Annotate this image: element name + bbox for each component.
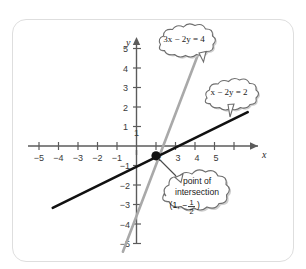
x-tick-label-3: 3 [175,153,180,163]
y-axis-arrow-icon [133,37,140,45]
x-axis-ticks-negative: −5 −4 −3 −2 −1 [34,142,122,163]
y-tick-label--2: −2 [120,181,130,191]
x-tick-label--2: −2 [92,153,102,163]
figure-root: x y −5 −4 −3 −2 −1 1 2 3 4 5 [0,0,306,269]
y-tick-label-4: 4 [123,64,128,74]
callout-2-text: x − 2y = 2 [210,87,247,97]
x-tick-label-1: 1 [134,128,139,138]
callout-1-text: 3x − 2y = 4 [163,34,205,44]
x-axis-label: x [261,149,267,160]
x-tick-label--5: −5 [34,153,44,163]
y-tick-label-5: 5 [123,44,128,54]
x-tick-label--4: −4 [53,153,63,163]
y-tick-label--4: −4 [120,220,130,230]
callout-intersection: point of intersection (1, − 1 2 ) [159,159,231,216]
callout-3-leader [159,159,176,176]
callout-1-tail [199,52,206,63]
x-tick-label-5: 5 [213,153,218,163]
callout-3-line1: point of [183,176,212,186]
axes-group: x y [28,37,267,243]
x-axis-arrow-icon [250,142,258,150]
callout-equation-2: x − 2y = 2 [205,79,260,117]
x-tick-label--3: −3 [73,153,83,163]
y-tick-label-3: 3 [123,83,128,93]
x-tick-label-4: 4 [194,153,199,163]
coord-fraction-numerator: 1 [189,198,193,207]
y-axis-ticks-positive: 1 2 3 4 5 [123,44,141,132]
coord-fraction-denominator: 2 [189,207,193,216]
coordinate-plane-chart: x y −5 −4 −3 −2 −1 1 2 3 4 5 [0,0,306,269]
y-tick-label-1: 1 [123,122,128,132]
coord-close: ) [197,200,200,210]
y-tick-label-2: 2 [123,103,128,113]
callout-equation-1: 3x − 2y = 4 [159,24,217,62]
y-tick-label--3: −3 [120,200,130,210]
coord-open: (1, − [170,200,187,210]
line-3x-2y-4 [123,52,199,252]
callout-3-line2: intersection [175,187,219,197]
